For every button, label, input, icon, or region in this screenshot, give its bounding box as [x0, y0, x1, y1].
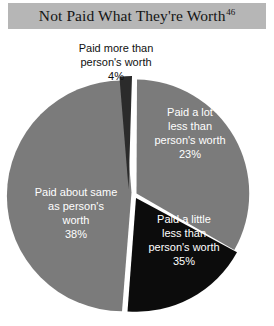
pie-label-paid-more-than: Paid more than person's worth 4%: [36, 41, 196, 83]
chart-figure: Not Paid What They're Worth46 Paid more …: [0, 0, 274, 326]
pie-label-line2: person's worth: [80, 56, 151, 68]
pie-slice-paid-about-same: [7, 81, 132, 312]
pie-label-line1: Paid more than: [79, 42, 154, 54]
pie-label-percent: 4%: [36, 69, 196, 83]
